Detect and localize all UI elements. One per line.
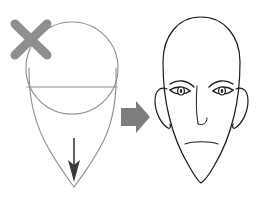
right-eye-pupil [221,89,224,93]
face-construction-figure [0,0,268,200]
figure-canvas [0,0,268,200]
left-eye-pupil [180,89,183,93]
